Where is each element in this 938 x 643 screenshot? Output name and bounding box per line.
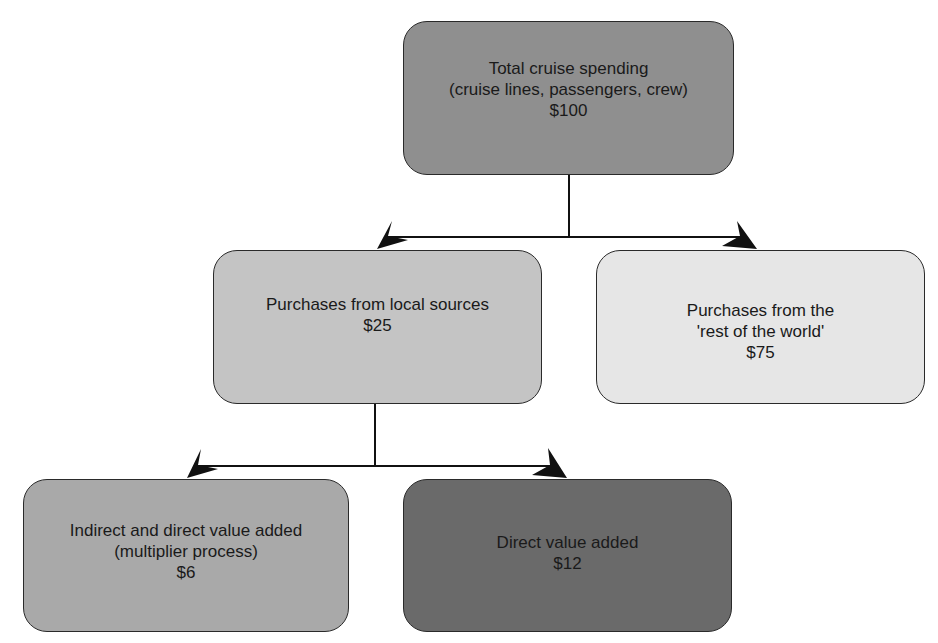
arrowhead-right-icon <box>532 448 567 478</box>
node-label: Indirect and direct value added <box>70 520 303 541</box>
node-label: 'rest of the world' <box>697 321 824 342</box>
arrowhead-right-icon <box>722 221 757 249</box>
node-value: $12 <box>553 553 581 574</box>
node-label: Direct value added <box>497 532 639 553</box>
node-label: (multiplier process) <box>114 541 258 562</box>
node-label: Purchases from the <box>687 300 834 321</box>
node-indirect-direct-value-added: Indirect and direct value added (multipl… <box>23 479 349 632</box>
node-local-purchases: Purchases from local sources $25 <box>213 250 542 404</box>
node-total-cruise-spending: Total cruise spending (cruise lines, pas… <box>403 21 734 175</box>
node-value: $25 <box>363 315 391 336</box>
node-label: Total cruise spending <box>489 58 649 79</box>
node-value: $6 <box>177 562 196 583</box>
arrowhead-left-icon <box>377 221 408 249</box>
node-value: $75 <box>746 342 774 363</box>
arrowhead-left-icon <box>187 449 218 478</box>
node-label: Purchases from local sources <box>266 294 489 315</box>
node-rest-of-world-purchases: Purchases from the 'rest of the world' $… <box>596 250 925 404</box>
node-value: $100 <box>550 100 588 121</box>
node-label: (cruise lines, passengers, crew) <box>449 79 688 100</box>
node-direct-value-added: Direct value added $12 <box>403 479 732 632</box>
